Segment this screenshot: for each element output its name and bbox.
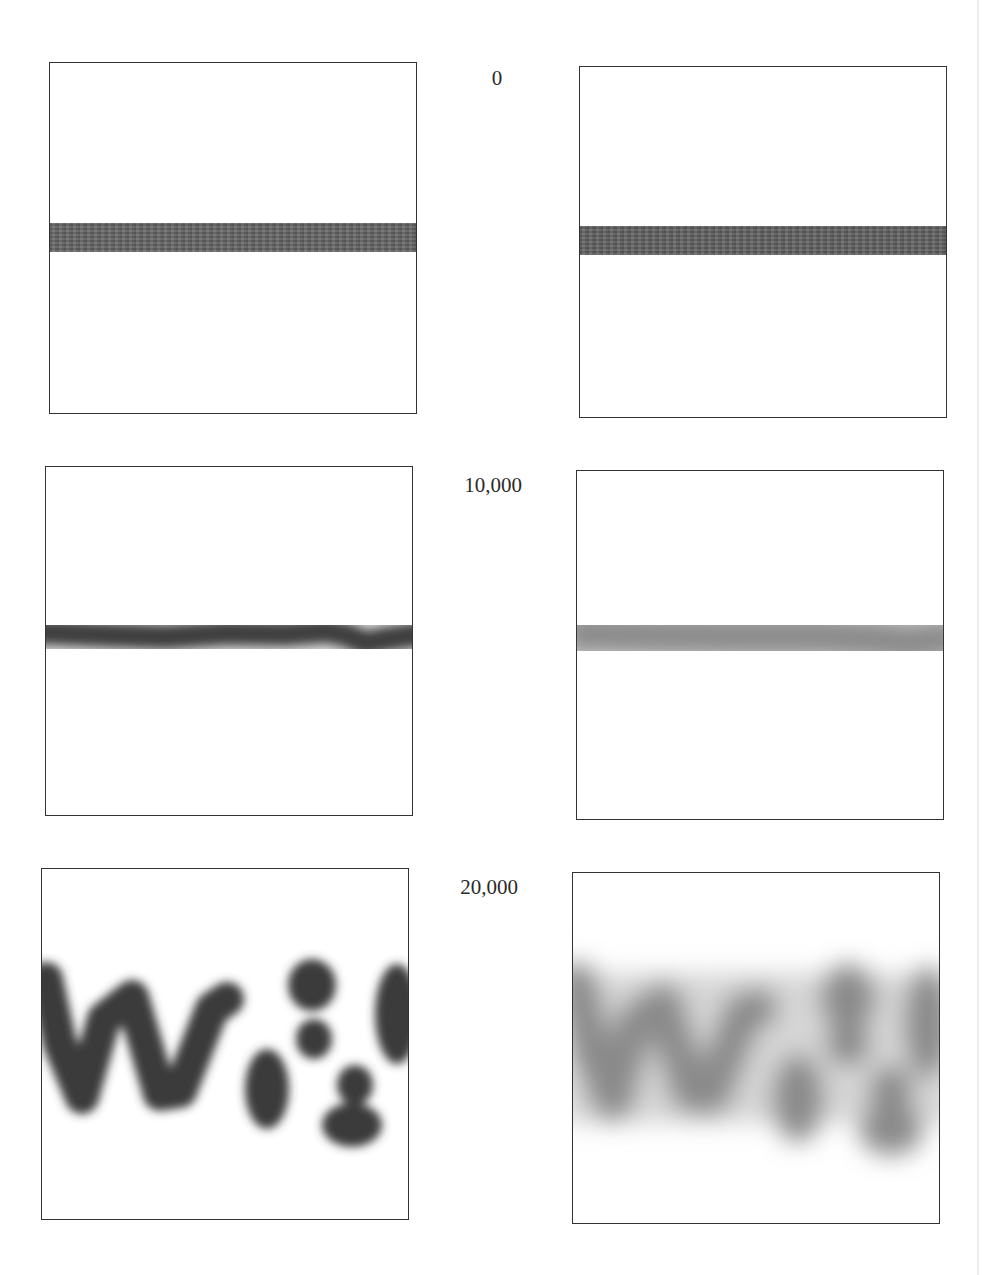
row-label-10000: 10,000 (433, 473, 553, 498)
panel-row2-left (45, 466, 413, 816)
row-label-20000: 20,000 (429, 875, 549, 900)
zigzag-pattern (42, 869, 409, 1220)
page-edge (977, 0, 979, 1275)
panel-row3-right (572, 872, 940, 1224)
faded-zigzag-pattern (573, 873, 940, 1224)
panel-row2-right (576, 470, 944, 820)
row-label-0: 0 (437, 66, 557, 91)
stripe-band (580, 226, 946, 255)
panel-row1-right (579, 66, 947, 418)
faded-blurred-stripe (577, 471, 944, 820)
panel-row3-left (41, 868, 409, 1220)
panel-row1-left (49, 62, 417, 414)
stripe-band (50, 223, 416, 252)
blurred-stripe (46, 467, 413, 816)
